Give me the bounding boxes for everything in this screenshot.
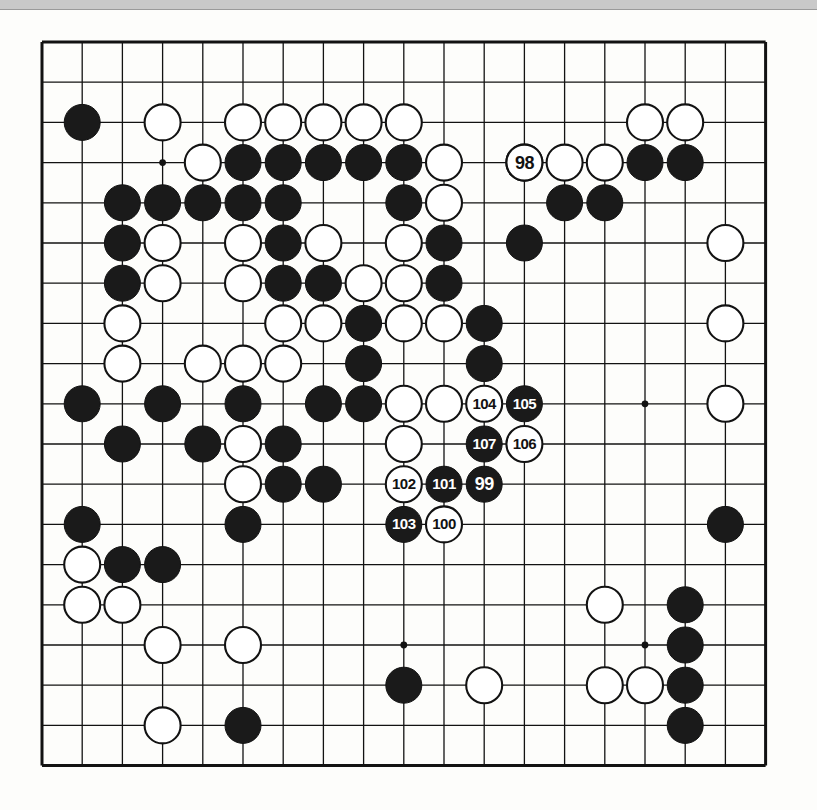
white-stone[interactable] [426, 305, 462, 341]
black-stone[interactable] [466, 305, 502, 341]
black-stone[interactable] [265, 185, 301, 221]
black-stone[interactable] [145, 185, 181, 221]
black-stone[interactable] [225, 185, 261, 221]
white-stone[interactable] [225, 346, 261, 382]
black-stone[interactable] [547, 185, 583, 221]
white-stone[interactable] [305, 225, 341, 261]
black-stone[interactable] [627, 145, 663, 181]
white-stone[interactable] [707, 225, 743, 261]
white-stone[interactable] [145, 104, 181, 140]
black-stone[interactable] [667, 587, 703, 623]
black-stone[interactable] [265, 225, 301, 261]
white-stone[interactable] [145, 265, 181, 301]
black-stone[interactable] [667, 667, 703, 703]
white-stone[interactable] [386, 265, 422, 301]
black-stone[interactable] [225, 386, 261, 422]
black-stone[interactable] [265, 426, 301, 462]
black-stone[interactable] [346, 386, 382, 422]
white-stone[interactable] [386, 104, 422, 140]
black-stone[interactable] [64, 104, 100, 140]
black-stone[interactable] [104, 547, 140, 583]
white-stone[interactable] [64, 587, 100, 623]
white-stone[interactable] [547, 145, 583, 181]
white-stone[interactable] [265, 305, 301, 341]
white-stone[interactable] [426, 386, 462, 422]
white-stone[interactable] [386, 305, 422, 341]
black-stone[interactable] [426, 225, 462, 261]
white-stone[interactable] [466, 667, 502, 703]
white-stone[interactable] [346, 104, 382, 140]
go-board[interactable]: 9899100101102103104105106107 [0, 0, 817, 810]
white-stone[interactable] [64, 547, 100, 583]
white-stone[interactable] [707, 305, 743, 341]
white-stone[interactable] [225, 225, 261, 261]
black-stone[interactable] [386, 145, 422, 181]
white-stone[interactable] [386, 225, 422, 261]
black-move-stone[interactable] [426, 466, 462, 502]
white-stone[interactable] [707, 386, 743, 422]
black-stone[interactable] [386, 185, 422, 221]
black-stone[interactable] [426, 265, 462, 301]
white-stone[interactable] [587, 667, 623, 703]
black-stone[interactable] [707, 506, 743, 542]
black-stone[interactable] [305, 466, 341, 502]
black-stone[interactable] [185, 185, 221, 221]
black-stone[interactable] [305, 386, 341, 422]
white-stone[interactable] [225, 104, 261, 140]
white-move-stone[interactable] [386, 466, 422, 502]
black-stone[interactable] [225, 707, 261, 743]
white-stone[interactable] [185, 145, 221, 181]
white-stone[interactable] [225, 265, 261, 301]
black-stone[interactable] [667, 707, 703, 743]
black-move-stone[interactable] [386, 506, 422, 542]
white-stone[interactable] [104, 305, 140, 341]
white-move-stone[interactable] [506, 145, 542, 181]
white-stone[interactable] [145, 707, 181, 743]
white-move-stone[interactable] [466, 386, 502, 422]
white-stone[interactable] [305, 104, 341, 140]
white-stone[interactable] [587, 587, 623, 623]
white-stone[interactable] [145, 225, 181, 261]
white-stone[interactable] [587, 145, 623, 181]
white-stone[interactable] [145, 627, 181, 663]
white-stone[interactable] [104, 346, 140, 382]
black-stone[interactable] [225, 145, 261, 181]
black-stone[interactable] [104, 185, 140, 221]
black-stone[interactable] [506, 225, 542, 261]
black-stone[interactable] [667, 627, 703, 663]
white-stone[interactable] [346, 265, 382, 301]
black-stone[interactable] [305, 265, 341, 301]
white-stone[interactable] [305, 305, 341, 341]
white-move-stone[interactable] [506, 426, 542, 462]
black-stone[interactable] [104, 225, 140, 261]
black-stone[interactable] [185, 426, 221, 462]
white-stone[interactable] [426, 185, 462, 221]
white-stone[interactable] [185, 346, 221, 382]
black-stone[interactable] [225, 506, 261, 542]
black-stone[interactable] [145, 386, 181, 422]
black-stone[interactable] [265, 145, 301, 181]
black-stone[interactable] [346, 305, 382, 341]
white-stone[interactable] [265, 104, 301, 140]
white-stone[interactable] [225, 466, 261, 502]
white-stone[interactable] [386, 386, 422, 422]
black-stone[interactable] [64, 506, 100, 542]
white-stone[interactable] [627, 667, 663, 703]
black-stone[interactable] [265, 466, 301, 502]
white-stone[interactable] [627, 104, 663, 140]
white-stone[interactable] [386, 426, 422, 462]
white-stone[interactable] [225, 627, 261, 663]
white-stone[interactable] [104, 587, 140, 623]
go-board-canvas[interactable] [0, 0, 817, 810]
black-stone[interactable] [145, 547, 181, 583]
black-stone[interactable] [265, 265, 301, 301]
black-stone[interactable] [104, 265, 140, 301]
black-stone[interactable] [466, 346, 502, 382]
black-stone[interactable] [346, 145, 382, 181]
black-move-stone[interactable] [506, 386, 542, 422]
white-stone[interactable] [225, 426, 261, 462]
black-stone[interactable] [587, 185, 623, 221]
white-stone[interactable] [265, 346, 301, 382]
black-stone[interactable] [667, 145, 703, 181]
black-stone[interactable] [104, 426, 140, 462]
